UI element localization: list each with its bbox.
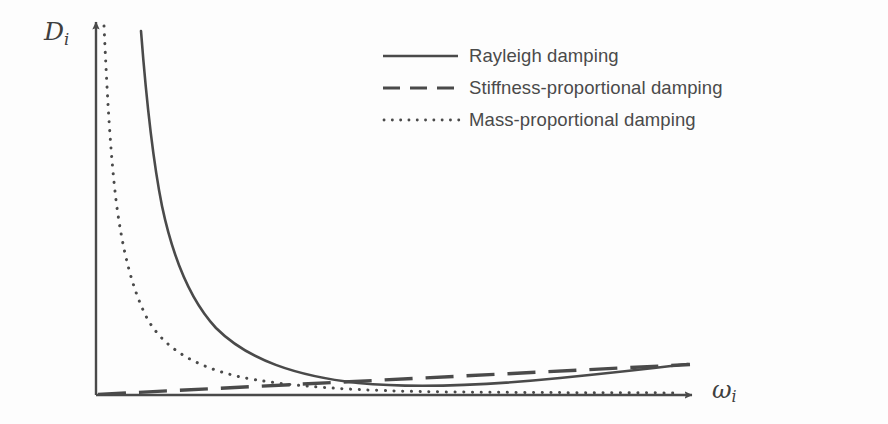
chart-legend: Rayleigh damping Stiffness-proportional … <box>382 40 852 136</box>
legend-sample-dotted-line-icon <box>382 113 467 127</box>
x-axis-label-subscript: i <box>732 387 737 406</box>
y-axis-label-subscript: i <box>64 30 69 49</box>
y-axis-label-symbol: D <box>44 17 64 46</box>
legend-item-stiffness: Stiffness-proportional damping <box>382 72 852 104</box>
x-axis-label: ωi <box>712 376 737 406</box>
damping-chart-figure: Di ωi Rayleigh damping Stiffness-proport… <box>0 0 888 424</box>
legend-sample-dashed-line-icon <box>382 81 467 95</box>
legend-sample-solid-line-icon <box>382 49 467 63</box>
legend-label-mass: Mass-proportional damping <box>469 109 696 131</box>
legend-item-mass: Mass-proportional damping <box>382 104 852 136</box>
y-axis-label: Di <box>44 17 69 49</box>
legend-label-stiffness: Stiffness-proportional damping <box>469 77 723 99</box>
x-axis-label-symbol: ω <box>712 376 732 404</box>
legend-label-rayleigh: Rayleigh damping <box>469 45 619 67</box>
legend-item-rayleigh: Rayleigh damping <box>382 40 852 72</box>
